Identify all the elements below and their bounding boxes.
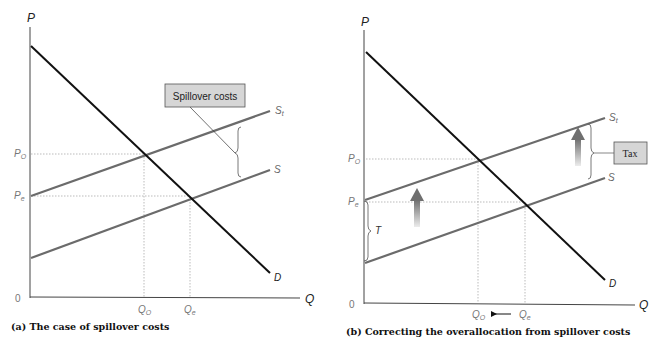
po-label: PO — [348, 153, 361, 165]
qo-label: QO — [472, 309, 486, 321]
tax-brace — [588, 124, 594, 179]
x-axis-label: Q — [305, 292, 314, 306]
panel-b: T Tax P Q 0 PO Pe QO Qe St S D (b) Corre… — [346, 15, 648, 337]
panel-a: Spillover costs P Q 0 PO Pe QO Qe St S D… — [11, 11, 314, 332]
y-axis-label: P — [361, 15, 369, 29]
qo-label: QO — [138, 304, 152, 316]
spillover-costs-label: Spillover costs — [173, 91, 237, 102]
caption-b: (b) Correcting the overallocation from s… — [346, 326, 630, 337]
qe-label: Qe — [519, 309, 531, 321]
t-label: T — [375, 225, 382, 236]
t-brace — [364, 201, 371, 261]
y-axis-label: P — [27, 11, 35, 25]
st-label: St — [275, 105, 285, 117]
supply-s-curve — [365, 178, 605, 263]
x-axis — [364, 303, 635, 305]
origin-label: 0 — [349, 299, 355, 310]
s-label: S — [274, 164, 281, 175]
st-label: St — [609, 112, 619, 124]
origin-label: 0 — [15, 293, 21, 304]
qe-label: Qe — [184, 304, 196, 316]
po-label: PO — [14, 148, 27, 160]
d-label: D — [274, 272, 281, 283]
pe-label: Pe — [348, 196, 359, 208]
shift-up-arrow-left — [410, 188, 424, 227]
pe-label: Pe — [14, 190, 25, 202]
demand-curve — [31, 46, 270, 273]
spillover-leader — [190, 107, 235, 153]
shift-up-arrow-right — [571, 127, 585, 166]
supply-st-curve — [365, 118, 605, 200]
s-label: S — [608, 172, 615, 183]
spillover-brace — [235, 127, 241, 177]
x-axis-label: Q — [639, 298, 648, 312]
x-axis — [30, 297, 300, 298]
demand-curve — [366, 52, 605, 280]
figure: Spillover costs P Q 0 PO Pe QO Qe St S D… — [0, 0, 661, 350]
d-label: D — [609, 278, 616, 289]
caption-a: (a) The case of spillover costs — [11, 321, 169, 332]
tax-label: Tax — [623, 148, 638, 159]
